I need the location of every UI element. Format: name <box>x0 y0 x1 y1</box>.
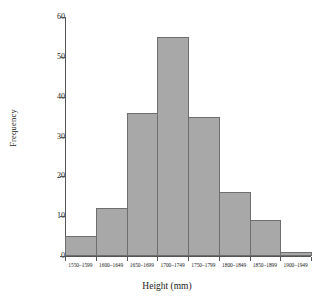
x-axis-tick-mark <box>127 257 128 261</box>
histogram-chart: Frequency 0102030405060 1550–15991600–16… <box>0 0 334 307</box>
histogram-bar <box>96 208 128 256</box>
histogram-bar <box>219 192 251 256</box>
x-axis-tick-label: 1900–1949 <box>280 262 311 269</box>
x-axis-tick-mark <box>188 257 189 261</box>
histogram-bar <box>65 236 97 256</box>
x-axis-tick-mark <box>96 257 97 261</box>
histogram-bar <box>157 37 189 256</box>
bars-layer <box>0 0 334 307</box>
x-axis-tick-mark <box>65 257 66 261</box>
histogram-bar <box>127 113 159 256</box>
x-axis-tick-label: 1600–1649 <box>96 262 127 269</box>
x-axis-tick-label: 1650–1699 <box>127 262 158 269</box>
x-axis-tick-mark <box>157 257 158 261</box>
x-axis-tick-label: 1800–1849 <box>219 262 250 269</box>
histogram-bar <box>188 117 220 256</box>
x-axis-tick-label: 1550–1599 <box>65 262 96 269</box>
x-axis-tick-label: 1850–1899 <box>250 262 281 269</box>
x-axis-tick-mark <box>280 257 281 261</box>
x-axis-tick-mark <box>219 257 220 261</box>
x-axis-tick-label: 1750–1799 <box>188 262 219 269</box>
x-axis-title: Height (mm) <box>0 281 334 291</box>
x-axis-tick-mark <box>311 257 312 261</box>
x-axis-tick-label: 1700–1749 <box>157 262 188 269</box>
x-axis-tick-mark <box>250 257 251 261</box>
histogram-bar <box>250 220 282 256</box>
x-axis-title-label: Height (mm) <box>142 281 191 291</box>
